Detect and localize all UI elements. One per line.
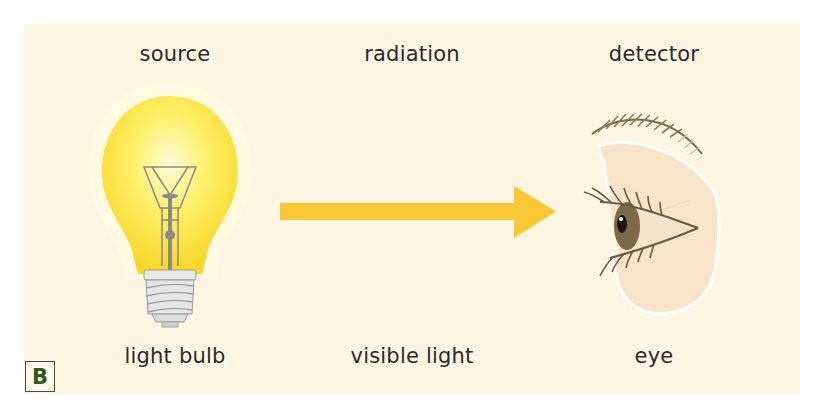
label-radiation: radiation [302,42,522,66]
light-bulb-icon [80,70,260,330]
label-light-bulb: light bulb [65,344,285,368]
label-visible-light: visible light [302,344,522,368]
figure-badge: B [25,361,55,392]
label-source: source [65,42,285,66]
label-detector: detector [544,42,764,66]
eye-icon [570,92,750,322]
label-eye: eye [544,344,764,368]
radiation-arrow-icon [278,184,558,240]
